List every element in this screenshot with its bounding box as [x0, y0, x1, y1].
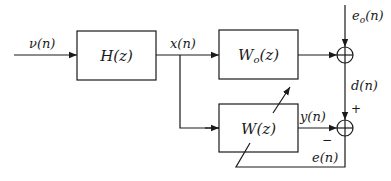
- x-signal-label: x(n): [170, 36, 196, 51]
- w-block-label: W(z): [241, 120, 276, 138]
- x-wire-lower: [180, 55, 219, 128]
- minus-sign: −: [322, 133, 332, 147]
- plus-sign: +: [351, 102, 361, 116]
- summer-1: [337, 47, 353, 63]
- eo-signal-label: eo(n): [352, 8, 384, 25]
- block-diagram: ν(n) H(z) x(n) Wo(z) eo(n) d(n) + W(z): [0, 0, 391, 181]
- y-signal-label: y(n): [299, 109, 326, 124]
- e-signal-label: e(n): [312, 150, 338, 165]
- input-signal-label: ν(n): [29, 36, 55, 51]
- summer-2: [337, 120, 353, 136]
- h-block-label: H(z): [99, 47, 133, 65]
- wo-block-label: Wo(z): [238, 46, 279, 65]
- diagram-svg: ν(n) H(z) x(n) Wo(z) eo(n) d(n) + W(z): [0, 0, 391, 181]
- d-signal-label: d(n): [351, 78, 378, 93]
